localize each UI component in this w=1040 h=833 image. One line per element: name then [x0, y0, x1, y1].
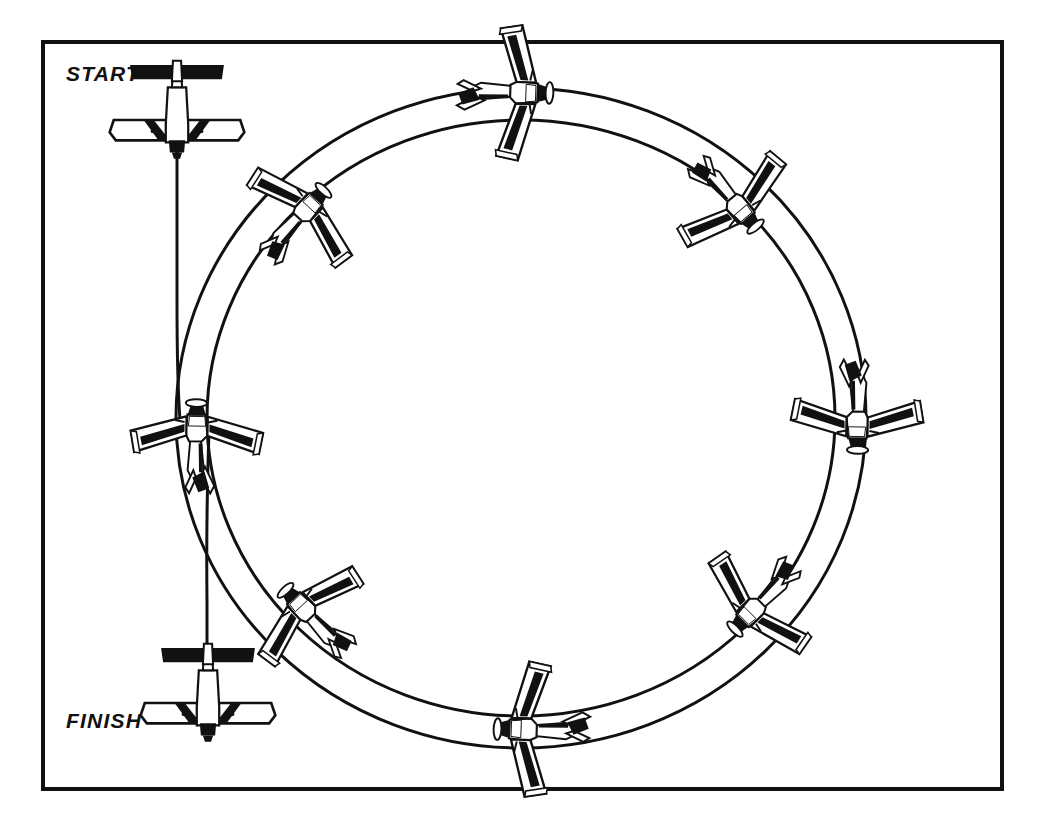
aircraft-position-upper-right — [649, 119, 806, 271]
start-label: START — [66, 62, 140, 86]
aircraft-position-lower-left — [237, 543, 393, 697]
figure-canvas: START FINISH — [0, 0, 1040, 833]
aircraft-group — [110, 23, 925, 799]
aircraft-position-bottom — [491, 660, 592, 799]
aircraft-finish — [141, 644, 276, 742]
finish-label: FINISH — [66, 709, 142, 733]
aircraft-position-left — [130, 398, 264, 494]
aircraft-position-right — [790, 359, 924, 455]
diagram-svg — [0, 0, 1040, 833]
